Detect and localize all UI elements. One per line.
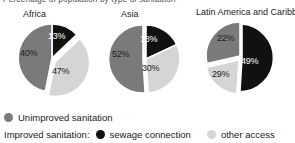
pie-label-asia-unimproved-sanitation: 52% xyxy=(112,49,129,59)
chart-title-africa: Africa xyxy=(23,9,46,20)
legend-label-other-access: other access xyxy=(221,129,275,141)
pie-label-latam-sewage-connection: 49% xyxy=(241,56,258,66)
legend-item-sewage-connection: sewage connection xyxy=(96,129,191,141)
legend-prefix-improved-sanitation: Improved sanitation: xyxy=(4,129,90,141)
chart-title-asia: Asia xyxy=(121,9,139,20)
legend-label-unimproved-sanitation: Unimproved sanitation xyxy=(18,112,113,124)
pie-chart-asia xyxy=(107,21,185,99)
figure-title-cropped: Percentage of population by type of sani… xyxy=(0,0,295,6)
pie-label-africa-unimproved-sanitation: 40% xyxy=(20,48,37,58)
figure-title-text: Percentage of population by type of sani… xyxy=(3,0,175,5)
pie-label-asia-other-access: 30% xyxy=(142,63,159,73)
pie-label-latam-other-access: 29% xyxy=(212,69,229,79)
chart-legend: Unimproved sanitation Improved sanitatio… xyxy=(4,110,292,142)
legend-row-unimproved: Unimproved sanitation xyxy=(4,110,292,125)
legend-swatch-sewage-connection xyxy=(96,130,105,139)
legend-item-other-access: other access xyxy=(207,129,275,141)
pie-label-asia-sewage-connection: 18% xyxy=(140,34,157,44)
pie-chart-asia-svg xyxy=(107,21,185,99)
legend-swatch-other-access xyxy=(207,130,216,139)
pie-label-latam-unimproved-sanitation: 22% xyxy=(217,33,234,43)
legend-label-sewage-connection: sewage connection xyxy=(110,129,191,141)
legend-row-improved: Improved sanitation: sewage connection o… xyxy=(4,127,292,142)
pie-label-africa-other-access: 47% xyxy=(52,66,69,76)
chart-title-latin-america-and-caribbean: Latin America and Caribbean xyxy=(196,7,295,18)
legend-swatch-unimproved-sanitation xyxy=(4,113,13,122)
pie-label-africa-sewage-connection: 13% xyxy=(48,31,65,41)
